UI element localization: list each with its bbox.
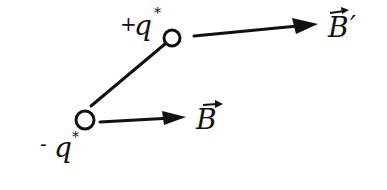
negative-sign: - bbox=[40, 134, 47, 154]
negative-charge-superscript: * bbox=[72, 130, 79, 144]
field-b-symbol: B bbox=[196, 106, 217, 134]
negative-charge-circle bbox=[76, 111, 94, 129]
dipole-rod bbox=[91, 44, 165, 106]
field-b-prime-symbol: B bbox=[328, 14, 349, 42]
positive-charge-symbol: q bbox=[134, 12, 152, 40]
positive-charge-superscript: * bbox=[154, 6, 161, 20]
negative-charge-symbol: q bbox=[54, 134, 72, 162]
negative-charge-label: - q * bbox=[38, 132, 88, 182]
field-arrow-b-prime bbox=[194, 18, 318, 36]
field-b-prime-mark: ′ bbox=[350, 12, 356, 38]
positive-charge-label: + q * bbox=[118, 6, 168, 40]
field-label-b-prime: B ′ bbox=[328, 14, 378, 50]
field-label-b: B bbox=[196, 106, 236, 142]
field-arrow-b bbox=[100, 111, 186, 125]
